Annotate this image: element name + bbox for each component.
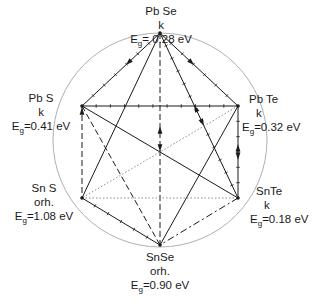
band-gap: Eg=0.90 eV [120, 278, 200, 294]
vertex-sns [80, 196, 84, 200]
arrow-head-icon [158, 127, 163, 134]
label-snte: SnTe k Eg=0.18 eV [250, 184, 318, 228]
structure: k [126, 18, 196, 32]
label-pbse: Pb Se k Eg= 0.28 eV [126, 4, 196, 48]
edges [80, 33, 241, 245]
vertex-pbs [80, 104, 84, 108]
arrow-head-icon [236, 152, 241, 159]
edge-pbse-snse [158, 33, 163, 245]
structure: orh. [120, 264, 200, 278]
edge-sns-snse [82, 198, 160, 245]
arrow-head-icon [199, 118, 204, 126]
edge-pbte-snte [236, 106, 241, 198]
band-gap: Eg=0.41 eV [8, 119, 74, 135]
structure: orh. [8, 195, 80, 209]
edge-snte-snse [160, 198, 238, 245]
arrow-head-icon [158, 144, 163, 151]
vertex-pbte [236, 104, 240, 108]
compound-name: Pb S [8, 91, 74, 105]
label-pbte: Pb Te k Eg=0.32 eV [242, 92, 318, 136]
band-gap: Eg=0.32 eV [242, 120, 318, 136]
edge-pbs-sns [80, 106, 85, 198]
compound-name: Pb Te [242, 92, 318, 106]
arrow-head-icon [236, 144, 241, 151]
structure: k [250, 198, 318, 212]
compound-name: SnSe [120, 250, 200, 264]
band-gap: Eg=1.08 eV [8, 209, 80, 225]
vertex-snte [236, 196, 240, 200]
compound-name: Pb Se [126, 4, 196, 18]
band-gap: Eg= 0.28 eV [126, 32, 196, 48]
edge-pbse-sns [82, 33, 160, 198]
band-gap: Eg=0.18 eV [250, 212, 318, 228]
label-snse: SnSe orh. Eg=0.90 eV [120, 250, 200, 294]
structure: k [8, 105, 74, 119]
compound-name: SnTe [250, 184, 318, 198]
edge-pbse-snte [160, 33, 238, 198]
vertex-snse [158, 243, 162, 247]
label-pbs: Pb S k Eg=0.41 eV [8, 91, 74, 135]
structure: k [242, 106, 318, 120]
compound-name: Sn S [8, 181, 80, 195]
label-sns: Sn S orh. Eg=1.08 eV [8, 181, 80, 225]
